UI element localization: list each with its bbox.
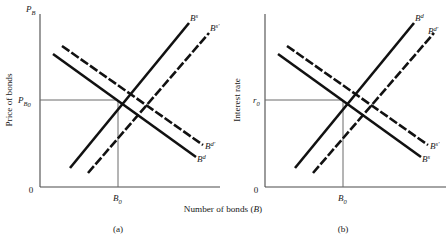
shared-x-axis-title-symbol: B	[253, 204, 259, 214]
panel-b-label-bond-demand-original: Bd	[415, 12, 425, 23]
panel-a-label-bond-supply-original: Bs	[190, 12, 199, 23]
figure-canvas: PB PB0 0 B0 Price of bonds Bs Bs' Bd' Bd…	[0, 0, 446, 245]
bond-market-figure: PB PB0 0 B0 Price of bonds Bs Bs' Bd' Bd…	[0, 0, 446, 245]
panel-a-label-bond-supply-shifted: Bs'	[210, 22, 220, 33]
panel-a-label-bond-demand-shifted: Bd'	[205, 140, 216, 151]
panel-b-y-axis-title: Interest rate	[232, 78, 242, 122]
panel-a-y-axis-title: Price of bonds	[4, 73, 14, 126]
panel-b-origin-label: 0	[254, 185, 259, 195]
panel-b-curve-bond-supply-shifted	[287, 46, 428, 145]
panel-b-label-bond-supply-original: Bs	[422, 153, 431, 164]
panel-a-caption: (a)	[113, 224, 123, 234]
shared-x-axis-title: Number of bonds (B)	[184, 204, 262, 214]
panel-a-curve-bond-supply-original	[70, 23, 189, 168]
panel-b-y-tick-label: r0	[253, 95, 261, 107]
panel-a-y-axis-symbol: PB	[25, 4, 36, 16]
panel-a-origin-label: 0	[29, 185, 34, 195]
panel-a-y-tick-label: PB0	[17, 95, 31, 108]
panel-b-curve-bond-demand-original	[295, 23, 414, 168]
panel-b-label-bond-demand-shifted: Bd'	[428, 25, 439, 36]
panel-a-label-bond-demand-original: Bd	[197, 153, 207, 164]
panel-b-x-tick-label: B0	[338, 193, 348, 205]
panel-a: PB PB0 0 B0 Price of bonds Bs Bs' Bd' Bd…	[4, 4, 220, 234]
panel-a-curve-bond-demand-shifted	[62, 46, 203, 145]
panel-a-x-tick-label: B0	[113, 193, 123, 205]
shared-x-axis-title-text: Number of bonds	[184, 204, 249, 214]
panel-b-caption: (b)	[338, 224, 349, 234]
panel-b-curve-bond-supply-original	[278, 54, 421, 157]
panel-b-label-bond-supply-shifted: Bs'	[430, 140, 440, 151]
panel-a-curve-bond-demand-original	[53, 54, 196, 157]
panel-b: r0 0 B0 Interest rate Bd Bd' Bs' Bs (b)	[232, 12, 446, 234]
